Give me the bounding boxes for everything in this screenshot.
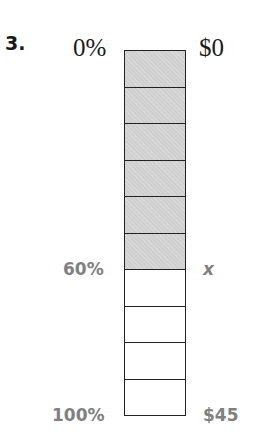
bar-segment-empty bbox=[125, 343, 185, 380]
bar-segment-empty bbox=[125, 307, 185, 344]
percent-bar-model bbox=[124, 50, 186, 416]
bar-segment-shaded bbox=[125, 197, 185, 234]
label-middle-percent: 60% bbox=[63, 259, 104, 279]
label-top-amount: $0 bbox=[199, 34, 224, 62]
bar-segment-empty bbox=[125, 270, 185, 307]
label-bottom-amount: $45 bbox=[203, 405, 239, 425]
bar-segment-shaded bbox=[125, 124, 185, 161]
label-bottom-percent: 100% bbox=[52, 405, 105, 425]
label-top-percent: 0% bbox=[73, 34, 106, 62]
bar-segment-shaded bbox=[125, 234, 185, 271]
problem-number: 3. bbox=[5, 32, 25, 54]
bar-segment-shaded bbox=[125, 51, 185, 88]
bar-segment-empty bbox=[125, 380, 185, 416]
label-unknown-amount: x bbox=[203, 259, 214, 279]
bar-segment-shaded bbox=[125, 161, 185, 198]
bar-segment-shaded bbox=[125, 88, 185, 125]
